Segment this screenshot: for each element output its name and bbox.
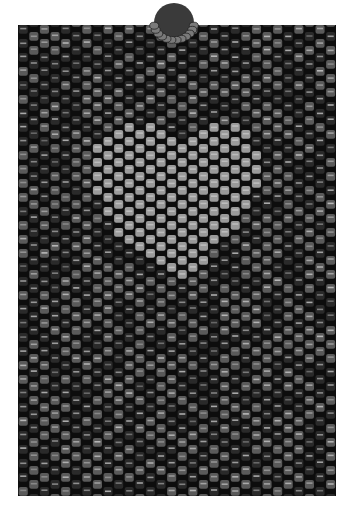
bead [135, 396, 144, 405]
bead-highlight [211, 434, 217, 436]
bead-highlight [328, 497, 334, 499]
bead-highlight [275, 351, 281, 353]
bead-highlight [190, 294, 196, 296]
bead-highlight [147, 126, 153, 128]
bead-highlight [285, 315, 291, 317]
bead [157, 312, 166, 321]
bead-highlight [31, 385, 37, 387]
bead-highlight [232, 99, 238, 101]
bead-highlight [306, 441, 312, 443]
bead-highlight [285, 496, 291, 498]
bead-highlight [41, 434, 47, 436]
bead-highlight [52, 343, 58, 345]
bead-highlight [328, 36, 334, 38]
bead [72, 466, 81, 475]
bead-highlight [116, 357, 122, 359]
bead-highlight [31, 329, 37, 331]
bead-highlight [94, 162, 100, 164]
bead-highlight [105, 112, 111, 114]
bead-highlight [296, 252, 302, 254]
bead-highlight [296, 224, 302, 226]
bead [199, 326, 208, 335]
bead-highlight [126, 239, 132, 241]
bead-highlight [222, 62, 228, 64]
bead-highlight [31, 244, 37, 246]
bead [241, 60, 250, 69]
bead-highlight [147, 112, 153, 114]
bead-highlight [116, 427, 122, 429]
beaded-panel-image [0, 0, 354, 520]
bead-highlight [275, 154, 281, 156]
bead [273, 459, 282, 468]
bead [40, 123, 49, 132]
bead-heart [167, 137, 176, 146]
bead-highlight [264, 470, 270, 472]
bead-highlight [179, 413, 185, 415]
bead-highlight [190, 238, 196, 240]
bead-highlight [306, 316, 312, 318]
bead-highlight [328, 77, 334, 79]
bead-highlight [317, 279, 323, 281]
bead [19, 445, 28, 454]
bead-highlight [232, 125, 238, 127]
bead-highlight [328, 216, 334, 218]
bead-highlight [41, 350, 47, 352]
bead-highlight [147, 280, 153, 282]
bead [167, 109, 176, 118]
bead [210, 249, 219, 258]
bead-highlight [200, 35, 206, 37]
bead-highlight [116, 498, 122, 500]
bead-highlight [63, 140, 69, 142]
bead-highlight [296, 433, 302, 435]
bead [135, 438, 144, 447]
bead [93, 18, 102, 27]
bead [273, 319, 282, 328]
bead-highlight [296, 378, 302, 380]
bead-highlight [200, 357, 206, 359]
bead-highlight [296, 42, 302, 44]
bead-highlight [63, 490, 69, 492]
bead-highlight [52, 426, 58, 428]
bead-highlight [126, 308, 132, 310]
bead [241, 494, 250, 503]
bead-highlight [52, 35, 58, 37]
bead [305, 466, 314, 475]
bead-highlight [169, 421, 175, 423]
bead-highlight [253, 14, 259, 16]
bead [284, 256, 293, 265]
bead-highlight [116, 49, 122, 51]
bead [305, 480, 314, 489]
bead-highlight [41, 211, 47, 213]
bead-highlight [190, 126, 196, 128]
bead [135, 116, 144, 125]
bead-highlight [105, 183, 111, 185]
bead-highlight [222, 259, 228, 261]
bead [284, 494, 293, 503]
bead [199, 116, 208, 125]
bead-highlight [52, 91, 58, 93]
bead-highlight [52, 329, 58, 331]
bead-highlight [253, 210, 259, 212]
bead-highlight [200, 273, 206, 275]
bead [82, 11, 91, 20]
bead-highlight [20, 211, 26, 213]
bead-highlight [296, 490, 302, 492]
bead-highlight [200, 76, 206, 78]
bead-highlight [41, 69, 47, 71]
bead-heart [167, 165, 176, 174]
bead [40, 487, 49, 496]
bead-highlight [84, 56, 90, 58]
bead [220, 60, 229, 69]
bead-highlight [158, 483, 164, 485]
bead-highlight [137, 315, 143, 317]
bead [305, 494, 314, 503]
bead-highlight [264, 329, 270, 331]
bead-highlight [84, 112, 90, 114]
bead-highlight [264, 483, 270, 485]
bead [72, 452, 81, 461]
bead-highlight [317, 364, 323, 366]
bead-highlight [264, 370, 270, 372]
bead [284, 340, 293, 349]
bead [326, 410, 335, 419]
bead-highlight [328, 330, 334, 332]
